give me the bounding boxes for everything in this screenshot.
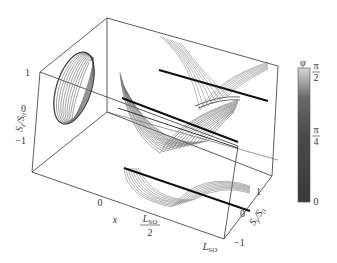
z-axis: 1 0 −1 Sz/S0 bbox=[13, 67, 30, 146]
y-tick-neg1: −1 bbox=[234, 237, 245, 248]
x-axis: 0 x LSO 2 LSO bbox=[98, 197, 218, 254]
colorbar-gradient bbox=[298, 68, 310, 202]
colorbar-tick-bottom: 0 bbox=[314, 196, 319, 207]
x-tick-full: LSO bbox=[202, 241, 218, 254]
colorbar: φ π 2 π 4 0 bbox=[298, 57, 320, 207]
3d-trajectories bbox=[120, 72, 238, 153]
x-axis-title: x bbox=[112, 214, 118, 225]
colorbar-tick-mid-den: 4 bbox=[314, 136, 319, 147]
y-tick-1: 1 bbox=[256, 186, 261, 197]
colorbar-tick-top-den: 2 bbox=[314, 72, 319, 83]
colorbar-tick-top-num: π bbox=[313, 60, 318, 71]
y-tick-0: 0 bbox=[240, 208, 245, 219]
back-wall-curves bbox=[160, 36, 268, 110]
x-tick-half-den: 2 bbox=[148, 227, 153, 238]
z-tick-neg1: −1 bbox=[15, 135, 26, 146]
z-axis-title: Sz/S0 bbox=[13, 111, 29, 132]
z-tick-0: 0 bbox=[21, 103, 26, 114]
y-axis: −1 0 1 Sy/S0 bbox=[234, 186, 269, 248]
colorbar-tick-mid-num: π bbox=[313, 124, 318, 135]
3d-spin-plot: 1 0 −1 Sz/S0 0 x LSO 2 LSO −1 0 1 Sy/S0 … bbox=[0, 0, 337, 263]
z-tick-1: 1 bbox=[25, 67, 30, 78]
bounding-box bbox=[32, 18, 278, 239]
y-axis-title: Sy/S0 bbox=[247, 205, 269, 229]
colorbar-title: φ bbox=[300, 57, 306, 68]
x-tick-0: 0 bbox=[98, 197, 103, 208]
